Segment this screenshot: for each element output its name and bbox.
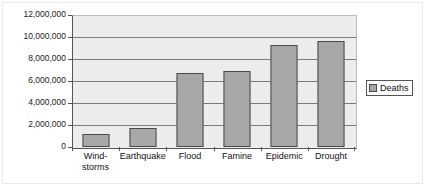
bar-epidemic[interactable] (271, 45, 298, 147)
bar-slot-earthquake (119, 15, 166, 147)
legend-swatch-icon (369, 84, 377, 92)
bar-slot-windstorms (72, 15, 119, 147)
bar-flood[interactable] (176, 73, 203, 147)
bar-drought[interactable] (318, 41, 345, 147)
x-axis-label-earthquake: Earthquake (116, 151, 170, 162)
x-axis-label-windstorms: Wind- storms (72, 151, 119, 173)
bars-layer (72, 15, 355, 147)
y-axis-label-8000000: 8,000,000 (0, 54, 66, 63)
x-axis-label-epidemic: Epidemic (258, 151, 311, 162)
x-axis-label-drought: Drought (306, 151, 356, 162)
x-axis-label-flood: Flood (166, 151, 213, 162)
y-axis-label-2000000: 2,000,000 (0, 120, 66, 129)
legend[interactable]: Deaths (366, 80, 413, 96)
y-axis-label-6000000: 6,000,000 (0, 76, 66, 85)
y-axis: 12,000,000 10,000,000 8,000,000 6,000,00… (0, 0, 66, 188)
x-axis: Wind- storms Earthquake Flood Famine Epi… (72, 151, 355, 183)
bar-chart: 12,000,000 10,000,000 8,000,000 6,000,00… (0, 0, 427, 188)
bar-slot-epidemic (261, 15, 308, 147)
bar-slot-drought (308, 15, 355, 147)
bar-slot-flood (166, 15, 213, 147)
bar-windstorms[interactable] (82, 134, 109, 147)
y-axis-label-10000000: 10,000,000 (0, 32, 66, 41)
y-axis-label-4000000: 4,000,000 (0, 98, 66, 107)
x-axis-label-famine: Famine (214, 151, 261, 162)
y-axis-label-12000000: 12,000,000 (0, 10, 66, 19)
bar-earthquake[interactable] (129, 128, 156, 147)
legend-entry-deaths: Deaths (380, 83, 409, 93)
bar-famine[interactable] (224, 71, 251, 147)
bar-slot-famine (214, 15, 261, 147)
y-axis-label-0: 0 (0, 142, 66, 151)
